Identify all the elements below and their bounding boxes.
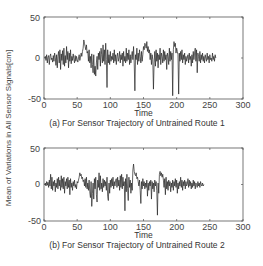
plot-a-x-axis-label: Time (134, 108, 153, 118)
plot-b-ytick-neg50: -50 (28, 216, 41, 226)
plot-a-xtick: 200 (169, 100, 184, 110)
plot-a: 50 0 -50 0 50 100 150 200 250 300 Time (… (28, 13, 251, 128)
plot-b: 50 0 -50 0 50 100 150 200 250 300 Time (… (28, 144, 251, 250)
plot-b-xtick: 50 (72, 222, 82, 232)
plot-b-xtick: 300 (235, 222, 250, 232)
plot-b-x-axis-label: Time (134, 230, 153, 240)
plot-b-ytick-0: 0 (35, 179, 40, 189)
plot-b-ytick-50: 50 (30, 144, 40, 154)
plot-a-ytick-0: 0 (35, 53, 40, 63)
y-axis-label: Mean of Variations in All Sensor Signals… (4, 50, 13, 206)
plot-a-xtick: 250 (202, 100, 217, 110)
plot-a-xtick: 0 (41, 100, 46, 110)
plot-a-caption: (a) For Sensor Trajectory of Untrained R… (49, 118, 225, 128)
plot-b-xtick: 200 (169, 222, 184, 232)
plot-a-ytick-neg50: -50 (28, 94, 41, 104)
plot-a-ytick-50: 50 (30, 13, 40, 23)
plot-b-xtick: 0 (41, 222, 46, 232)
plot-b-caption: (b) For Sensor Trajectory of Untrained R… (49, 240, 225, 250)
plot-b-xtick: 100 (103, 222, 118, 232)
figure: Mean of Variations in All Sensor Signals… (0, 0, 263, 266)
plot-a-xtick: 100 (103, 100, 118, 110)
plot-a-xtick: 50 (72, 100, 82, 110)
plot-a-xtick: 300 (235, 100, 250, 110)
plot-b-xtick: 250 (202, 222, 217, 232)
